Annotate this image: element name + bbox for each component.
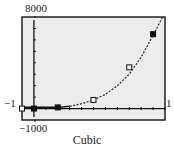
filled-square-marker: [31, 106, 36, 111]
plot-area: [0, 0, 174, 154]
open-square-marker: [127, 65, 132, 70]
plot-frame: [22, 17, 165, 120]
open-square-marker: [91, 97, 96, 102]
filled-square-marker: [55, 105, 60, 110]
open-square-marker: [20, 106, 25, 111]
filled-square-marker: [151, 32, 156, 37]
